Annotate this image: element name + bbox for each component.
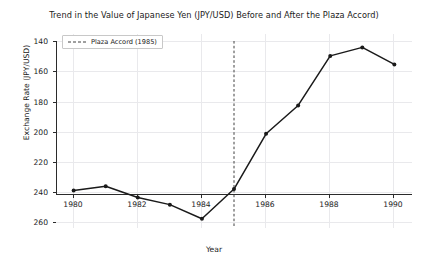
gridline-y-160 [56,71,412,72]
chart-legend: Plaza Accord (1985) [62,35,163,49]
x-tick-mark-1988 [329,195,330,198]
y-tick-label-240: 240 [8,188,48,197]
x-tick-mark-1986 [265,195,266,198]
y-tick-label-260: 260 [8,218,48,227]
x-tick-mark-1980 [73,195,74,198]
y-tick-mark-220 [53,162,56,163]
gridline-y-180 [56,102,412,103]
y-tick-mark-180 [53,102,56,103]
chart-title: Trend in the Value of Japanese Yen (JPY/… [0,10,428,20]
plot-background [56,34,412,228]
y-axis-spine [56,41,57,194]
y-tick-mark-260 [53,222,56,223]
x-tick-mark-1984 [201,195,202,198]
x-axis-label: Year [0,245,428,254]
plot-area [56,34,412,228]
x-tick-mark-1990 [393,195,394,198]
gridline-x-1982 [137,34,138,228]
y-tick-mark-200 [53,132,56,133]
gridline-x-1980 [73,34,74,228]
x-tick-label-1984: 1984 [181,200,221,209]
y-axis-label: Exchange Rate (JPY/USD) [22,23,31,163]
x-tick-mark-1982 [137,195,138,198]
legend-label-plaza-accord: Plaza Accord (1985) [91,38,157,46]
gridline-y-260 [56,222,412,223]
y-tick-mark-240 [53,192,56,193]
gridline-x-1988 [329,34,330,228]
y-tick-mark-140 [53,41,56,42]
x-tick-label-1988: 1988 [309,200,349,209]
y-tick-mark-160 [53,71,56,72]
legend-dashed-line-icon [67,39,87,45]
chart-figure: Trend in the Value of Japanese Yen (JPY/… [0,0,428,269]
x-tick-label-1990: 1990 [373,200,413,209]
x-tick-label-1986: 1986 [245,200,285,209]
x-tick-label-1982: 1982 [117,200,157,209]
gridline-y-200 [56,132,412,133]
gridline-y-240 [56,192,412,193]
x-tick-label-1980: 1980 [53,200,93,209]
gridline-x-1984 [201,34,202,228]
gridline-x-1986 [265,34,266,228]
x-axis-spine [56,194,412,195]
gridline-x-1990 [393,34,394,228]
gridline-y-220 [56,162,412,163]
